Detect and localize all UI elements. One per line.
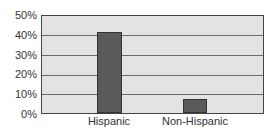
plot-area — [41, 15, 264, 114]
y-tick-label: 50% — [0, 9, 37, 21]
x-tick-label-non-hispanic: Non-Hispanic — [150, 115, 240, 127]
bar-hispanic — [97, 32, 122, 113]
bar-non-hispanic — [183, 99, 207, 113]
y-tick-label: 0% — [0, 108, 37, 120]
y-tick-label: 30% — [0, 49, 37, 61]
x-tick-label-hispanic: Hispanic — [64, 115, 154, 127]
gridline — [42, 55, 263, 56]
y-tick-label: 10% — [0, 88, 37, 100]
y-tick-label: 20% — [0, 68, 37, 80]
y-tick-label: 40% — [0, 29, 37, 41]
gridline — [42, 35, 263, 36]
gridline — [42, 75, 263, 76]
gridline — [42, 94, 263, 95]
